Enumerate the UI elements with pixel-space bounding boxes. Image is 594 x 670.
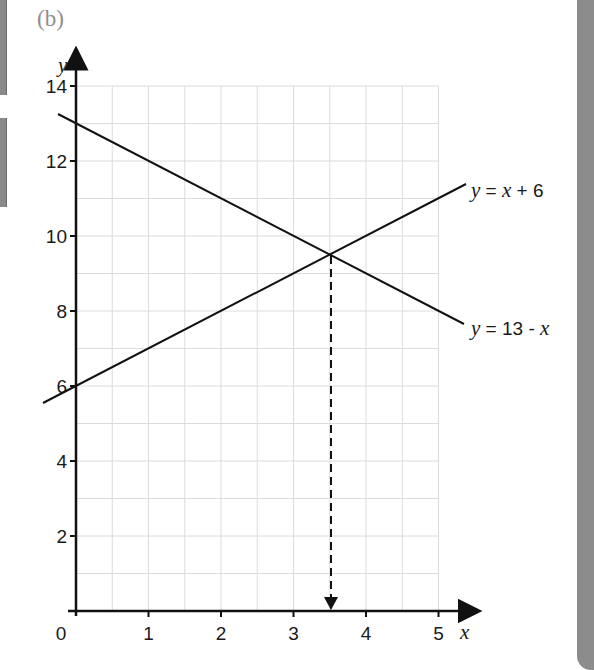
- ticks: [70, 86, 439, 617]
- axes: [68, 58, 470, 616]
- x-tick-4: 4: [361, 623, 372, 644]
- y-tick-4: 4: [56, 451, 67, 472]
- x-tick-5: 5: [433, 623, 444, 644]
- x-tick-labels: 0 1 2 3 4 5: [56, 623, 444, 644]
- line-y-equals-13-minus-x: [58, 114, 464, 324]
- y-tick-10: 10: [46, 226, 67, 247]
- drop-arrowhead-icon: [324, 597, 338, 610]
- graph: 14 12 10 8 6 4 2 0 1 2 3 4 5 y x y = x +…: [0, 0, 594, 670]
- legend-line2-label: y = 13 - x: [469, 316, 550, 340]
- y-tick-14: 14: [46, 76, 68, 97]
- x-tick-2: 2: [216, 623, 227, 644]
- origin-label: 0: [56, 623, 67, 644]
- legend-line1-label: y = x + 6: [469, 178, 544, 202]
- y-tick-12: 12: [46, 151, 67, 172]
- y-axis-label: y: [56, 53, 68, 77]
- x-tick-1: 1: [143, 623, 154, 644]
- y-tick-8: 8: [56, 301, 67, 322]
- x-axis-label: x: [459, 620, 470, 644]
- y-tick-2: 2: [56, 526, 67, 547]
- x-tick-3: 3: [288, 623, 299, 644]
- y-tick-labels: 14 12 10 8 6 4 2: [46, 76, 68, 547]
- grid: [76, 86, 439, 611]
